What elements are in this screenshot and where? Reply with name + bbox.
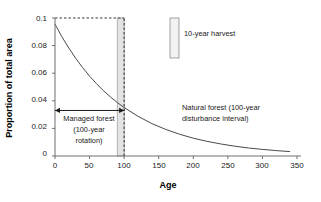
natural-forest-label-line2: disturbance interval) <box>182 114 249 123</box>
managed-forest-label-line3: rotation) <box>75 136 102 145</box>
y-tick-label: 0.04 <box>31 95 47 104</box>
x-tick-label: 100 <box>117 161 131 170</box>
x-axis-title: Age <box>159 180 176 190</box>
chart-container: 0.1 0.08 0.06 0.04 0.02 0 0 50 100 150 2… <box>0 0 321 202</box>
managed-forest-label-line2: (100-year <box>73 125 105 134</box>
managed-forest-label-line1: Managed forest <box>63 114 114 123</box>
y-tick-label: 0.1 <box>36 14 48 23</box>
natural-forest-label-line1: Natural forest (100-year <box>182 103 261 112</box>
chart-svg: 0.1 0.08 0.06 0.04 0.02 0 0 50 100 150 2… <box>0 0 321 202</box>
y-tick-label: 0.06 <box>31 68 47 77</box>
x-tick-label: 300 <box>255 161 269 170</box>
x-tick-label: 50 <box>85 161 94 170</box>
x-tick-label: 0 <box>53 161 58 170</box>
y-axis-title: Proportion of total area <box>4 37 14 138</box>
y-tick-label: 0 <box>43 149 48 158</box>
harvest-band <box>117 18 124 156</box>
legend-swatch-harvest <box>170 18 179 58</box>
y-tick-label: 0.02 <box>31 122 47 131</box>
managed-forest-arrow <box>55 108 124 113</box>
x-tick-label: 200 <box>186 161 200 170</box>
legend-label-harvest: 10-year harvest <box>184 29 235 38</box>
x-tick-label: 350 <box>290 161 304 170</box>
y-tick-label: 0.08 <box>31 41 47 50</box>
x-tick-label: 250 <box>221 161 235 170</box>
x-tick-label: 150 <box>152 161 166 170</box>
